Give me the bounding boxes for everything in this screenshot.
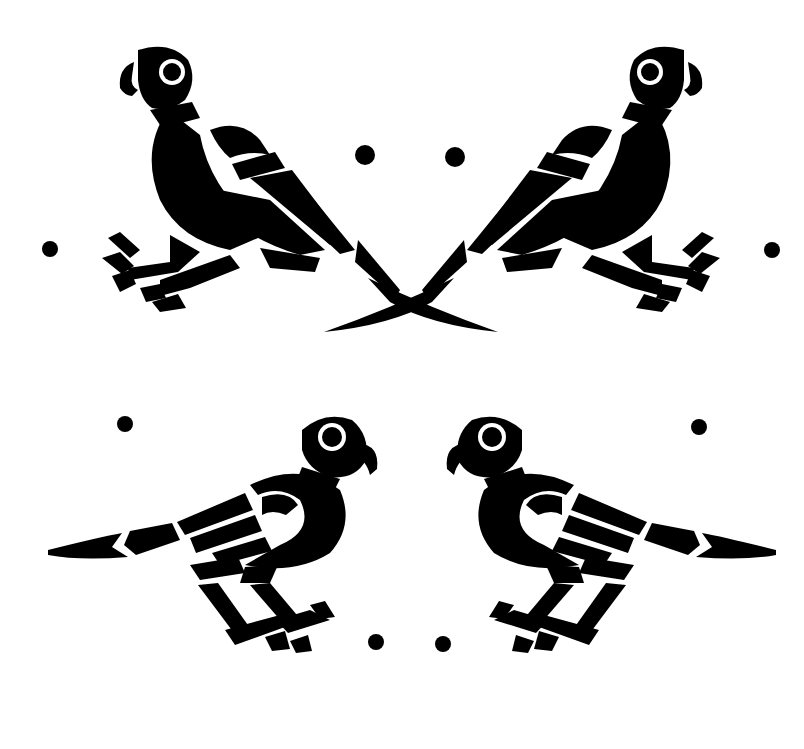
decorative-dot	[355, 145, 375, 165]
decorative-dots	[42, 145, 780, 652]
decorative-dot	[764, 242, 780, 258]
decorative-dot	[445, 147, 465, 167]
decorative-dot	[435, 636, 451, 652]
parrot-bottom-right	[447, 417, 776, 653]
decorative-dot	[117, 416, 133, 432]
parrots-artwork	[0, 0, 804, 749]
parrot-bottom-left	[48, 417, 377, 653]
stencil-illustration: Black and white stencil of four stylized…	[0, 0, 804, 749]
decorative-dot	[42, 241, 58, 257]
decorative-dot	[368, 634, 384, 650]
decorative-dot	[691, 419, 707, 435]
